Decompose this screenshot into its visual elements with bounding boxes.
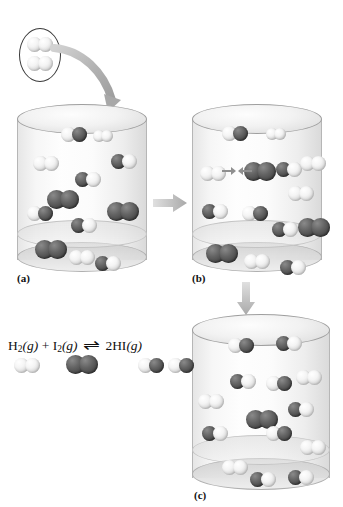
i2-molecule bbox=[107, 202, 139, 221]
hi-molecule bbox=[71, 218, 97, 233]
hydrogen-atom bbox=[241, 374, 256, 389]
iodine-atom bbox=[233, 126, 248, 141]
hi-molecule bbox=[61, 127, 87, 142]
h2-molecule bbox=[93, 130, 113, 142]
hi-molecule bbox=[272, 222, 298, 237]
hydrogen-atom bbox=[255, 254, 270, 269]
reaction-vessel-c bbox=[192, 314, 330, 490]
iodine-atom bbox=[72, 127, 87, 142]
hydrogen-atom bbox=[106, 256, 121, 271]
hi-molecule bbox=[266, 426, 292, 441]
hi-model-1 bbox=[138, 358, 164, 373]
hydrogen-atom bbox=[307, 370, 322, 385]
h2-molecule bbox=[222, 460, 248, 475]
hi-molecule bbox=[242, 206, 268, 221]
iodine-atom bbox=[120, 202, 139, 221]
hi-molecule bbox=[288, 402, 314, 417]
iodine-atom bbox=[149, 358, 164, 373]
hi-molecule bbox=[280, 260, 306, 275]
hydrogen-atom bbox=[82, 218, 97, 233]
panel-label-a: (a) bbox=[17, 272, 30, 284]
hi-molecule bbox=[222, 126, 248, 141]
chemical-equation: H2(g) + I2(g) ⇌ 2HI(g) bbox=[8, 336, 188, 354]
hydrogen-atom bbox=[311, 156, 326, 171]
h2-molecule bbox=[288, 186, 314, 201]
iodine-atom bbox=[311, 218, 330, 237]
hydrogen-atom bbox=[213, 204, 228, 219]
reaction-vessel-a bbox=[17, 104, 147, 272]
hi-model-2 bbox=[168, 358, 194, 373]
reactant-h2: H2(g) bbox=[8, 338, 38, 353]
collision-arrows bbox=[222, 166, 252, 176]
equilibrium-arrow-icon: ⇌ bbox=[77, 336, 105, 354]
h2-molecule bbox=[300, 440, 326, 455]
hi-molecule bbox=[75, 172, 101, 187]
iodine-atom bbox=[277, 426, 292, 441]
hi-molecule bbox=[202, 204, 228, 219]
hi-molecule bbox=[276, 336, 302, 351]
iodine-atom bbox=[38, 206, 53, 221]
h2-molecule bbox=[296, 370, 322, 385]
legend: H2(g) + I2(g) ⇌ 2HI(g) bbox=[8, 336, 188, 390]
h2-molecule bbox=[198, 394, 224, 409]
iodine-atom bbox=[219, 244, 238, 263]
hydrogen-atom bbox=[274, 128, 286, 140]
h2-molecule bbox=[244, 254, 270, 269]
hi-molecule bbox=[27, 206, 53, 221]
hi-molecule bbox=[95, 256, 121, 271]
hydrogen-atom bbox=[213, 426, 228, 441]
h2-molecule bbox=[69, 250, 95, 265]
reactant-i2: I2(g) bbox=[53, 338, 78, 353]
hi-molecule bbox=[111, 154, 137, 169]
cylinder-top-ellipse bbox=[192, 314, 330, 346]
hydrogen-atom bbox=[86, 172, 101, 187]
hi-molecule bbox=[266, 376, 292, 391]
cylinder-top-ellipse bbox=[192, 104, 322, 134]
hydrogen-atom bbox=[233, 460, 248, 475]
iodine-atom bbox=[179, 358, 194, 373]
i2-molecule bbox=[35, 240, 67, 259]
hi-molecule bbox=[250, 472, 276, 487]
iodine-atom bbox=[60, 190, 79, 209]
hydrogen-atom bbox=[44, 156, 59, 171]
h2-model bbox=[14, 358, 40, 373]
hydrogen-atom bbox=[299, 470, 314, 485]
hydrogen-atom bbox=[261, 472, 276, 487]
hydrogen-atom bbox=[299, 402, 314, 417]
iodine-atom bbox=[79, 355, 98, 374]
hydrogen-atom bbox=[25, 358, 40, 373]
hydrogen-atom bbox=[209, 394, 224, 409]
hydrogen-atom bbox=[283, 222, 298, 237]
hydrogen-atom bbox=[80, 250, 95, 265]
hydrogen-atom bbox=[311, 440, 326, 455]
iodine-atom bbox=[257, 162, 276, 181]
hydrogen-atom bbox=[291, 260, 306, 275]
hi-molecule bbox=[288, 470, 314, 485]
hi-molecule bbox=[228, 338, 254, 353]
iodine-atom bbox=[277, 376, 292, 391]
panel-label-b: (b) bbox=[192, 272, 205, 284]
reaction-vessel-b bbox=[192, 104, 322, 272]
panel-label-c: (c) bbox=[194, 489, 206, 501]
hydrogen-atom bbox=[122, 154, 137, 169]
hi-molecule bbox=[202, 426, 228, 441]
equilibrium-figure: (a) (b) bbox=[0, 0, 343, 507]
iodine-atom bbox=[239, 338, 254, 353]
hi-molecule bbox=[276, 162, 302, 177]
hydrogen-atom bbox=[299, 186, 314, 201]
i2-molecule bbox=[206, 244, 238, 263]
iodine-atom bbox=[253, 206, 268, 221]
plus-sign: + bbox=[42, 338, 50, 353]
iodine-atom bbox=[48, 240, 67, 259]
b-to-c-arrow bbox=[236, 282, 258, 318]
product-hi: 2HI(g) bbox=[105, 338, 142, 353]
hi-molecule bbox=[230, 374, 256, 389]
i2-molecule bbox=[298, 218, 330, 237]
h2-molecule bbox=[300, 156, 326, 171]
hydrogen-atom bbox=[101, 130, 113, 142]
hydrogen-atom bbox=[287, 336, 302, 351]
a-to-b-arrow bbox=[153, 193, 191, 215]
h2-molecule bbox=[266, 128, 286, 140]
i2-model bbox=[66, 355, 98, 374]
h2-molecule bbox=[33, 156, 59, 171]
